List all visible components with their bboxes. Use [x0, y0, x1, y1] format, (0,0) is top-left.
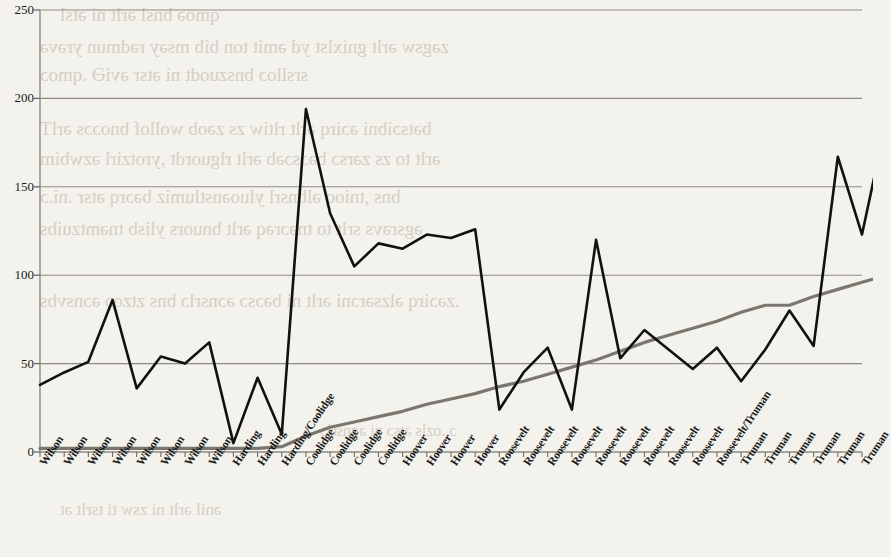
y-tick-label: 250 — [0, 2, 34, 18]
y-tick-label: 100 — [0, 267, 34, 283]
y-tick-label: 50 — [0, 356, 34, 372]
y-tick-label: 0 — [0, 444, 34, 460]
y-tick-label: 150 — [0, 179, 34, 195]
y-tick-label: 200 — [0, 90, 34, 106]
series-line-black-series — [40, 109, 873, 443]
gridlines — [40, 10, 862, 452]
